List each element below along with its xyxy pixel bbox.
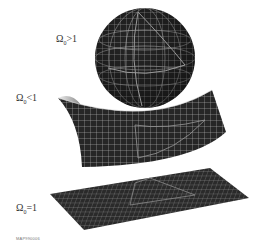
- closed-sphere: [95, 8, 195, 108]
- image-credit: MAP990006: [16, 236, 40, 241]
- label-open-universe: Ω0<1: [16, 92, 37, 105]
- geometry-figure: [0, 0, 266, 252]
- label-flat-universe: Ω0=1: [16, 202, 37, 215]
- flat-plane: [50, 168, 249, 230]
- universe-geometry-diagram: Ω0>1 Ω0<1 Ω0=1 MAP990006: [0, 0, 266, 252]
- label-closed-universe: Ω0>1: [56, 33, 77, 46]
